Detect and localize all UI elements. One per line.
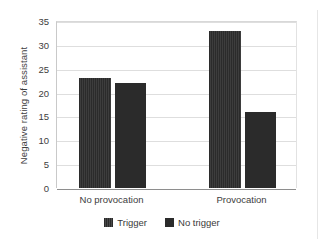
chart-legend: TriggerNo trigger [0, 217, 324, 228]
gridline-0 [57, 189, 296, 190]
bar [115, 83, 146, 188]
plot-area [56, 21, 297, 188]
legend-swatch-icon [104, 218, 113, 227]
bar-series-container [57, 22, 296, 188]
legend-swatch-icon [165, 218, 174, 227]
bar [79, 78, 111, 188]
x-axis-label-provocation: Provocation [216, 194, 266, 205]
bar [209, 31, 241, 188]
bar [245, 112, 276, 188]
bar-chart-figure: Negative rating of assistant 05101520253… [0, 0, 324, 239]
legend-label: Trigger [117, 217, 147, 228]
x-axis-label-no-provocation: No provocation [80, 194, 144, 205]
legend-item-no-trigger[interactable]: No trigger [165, 217, 220, 228]
y-axis-title: Negative rating of assistant [18, 18, 29, 194]
legend-item-trigger[interactable]: Trigger [104, 217, 147, 228]
legend-label: No trigger [178, 217, 220, 228]
